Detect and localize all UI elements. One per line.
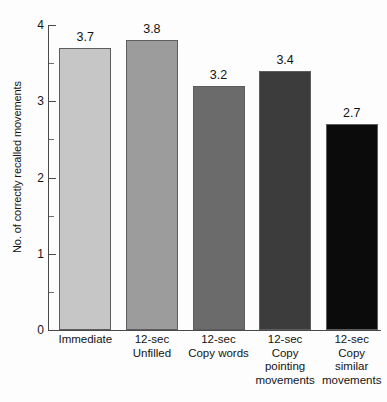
x-tick-label-line: Copy words <box>182 347 255 361</box>
bar-chart-figure: No. of correctly recalled movements 0123… <box>0 0 387 402</box>
bar-value-label: 3.2 <box>193 69 245 82</box>
bar <box>259 71 311 330</box>
x-tick-label: 12-secCopypointingmovements <box>249 333 322 387</box>
bar-value-label: 3.8 <box>126 23 178 36</box>
x-tick-label-line: similar <box>315 360 387 374</box>
x-tick-label-line: 12-sec <box>249 333 322 347</box>
bar <box>326 124 378 330</box>
x-tick-label-line: Copy <box>249 347 322 361</box>
x-tick-label: 12-secCopy words <box>182 333 255 360</box>
y-axis-tick-labels: 01234 <box>26 0 44 402</box>
x-tick-label-line: movements <box>315 374 387 388</box>
y-tick-label: 2 <box>28 172 44 184</box>
x-tick-label: 12-secUnfilled <box>116 333 189 360</box>
x-tick-label: 12-secCopysimilarmovements <box>315 333 387 387</box>
y-axis-title: No. of correctly recalled movements <box>8 2 26 332</box>
x-tick-label-line: 12-sec <box>182 333 255 347</box>
bar-series: 3.73.83.23.42.7 <box>48 25 381 330</box>
x-tick-label-line: 12-sec <box>116 333 189 347</box>
x-tick-label-line: Copy <box>315 347 387 361</box>
x-axis-line <box>48 330 381 331</box>
bar-value-label: 2.7 <box>326 107 378 120</box>
x-tick-label-line: pointing <box>249 360 322 374</box>
y-tick-label: 4 <box>28 19 44 31</box>
bar-value-label: 3.7 <box>59 31 111 44</box>
y-tick-label: 3 <box>28 95 44 107</box>
bar <box>59 48 111 330</box>
y-tick-label: 0 <box>28 324 44 336</box>
x-tick-label-line: Immediate <box>49 333 122 347</box>
x-tick-label-line: Unfilled <box>116 347 189 361</box>
x-tick-label-line: movements <box>249 374 322 388</box>
y-tick-label: 1 <box>28 248 44 260</box>
bar <box>193 86 245 330</box>
x-axis-tick-labels: Immediate12-secUnfilled12-secCopy words1… <box>48 333 381 402</box>
plot-area: 3.73.83.23.42.7 <box>48 25 381 330</box>
bar-value-label: 3.4 <box>259 54 311 67</box>
bar <box>126 40 178 330</box>
x-tick-label-line: 12-sec <box>315 333 387 347</box>
x-tick-label: Immediate <box>49 333 122 347</box>
